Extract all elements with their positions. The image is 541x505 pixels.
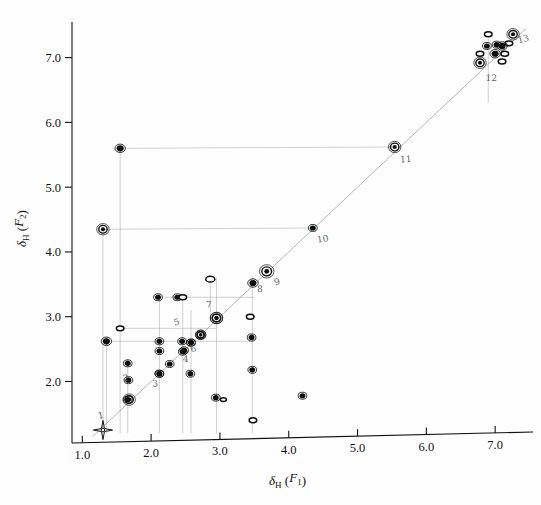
- peak: [474, 57, 486, 68]
- y-tick-label: 2.0: [45, 375, 61, 389]
- y-tick-label: 6.0: [45, 116, 61, 130]
- peak-core: [310, 225, 316, 230]
- peak: [484, 32, 492, 37]
- peak-contour: [179, 295, 187, 300]
- peak-contour: [498, 59, 506, 64]
- x-tick-label: 5.0: [350, 441, 366, 455]
- x-tick-label: 2.0: [143, 446, 159, 460]
- peak-core: [179, 339, 185, 344]
- peak-core: [117, 145, 124, 151]
- axis-spines: [72, 22, 533, 443]
- peak-core: [127, 398, 131, 402]
- peak-core: [187, 371, 193, 376]
- peak-number-annotation: 8: [257, 284, 263, 294]
- cosy-spectrum-figure: 7.06.05.04.03.02.0 1.02.03.04.05.06.07.0…: [0, 0, 541, 505]
- peak-number-annotation: 1: [97, 410, 105, 421]
- peak-core: [156, 339, 162, 344]
- peak-core: [167, 361, 173, 366]
- peak: [247, 334, 256, 341]
- x-tick-label: 4.0: [281, 443, 297, 457]
- peak: [195, 330, 205, 340]
- x-tick-label: 1.0: [75, 448, 91, 462]
- peak-core: [103, 338, 110, 344]
- peak-core: [213, 395, 219, 400]
- peak-core: [511, 32, 515, 36]
- y-axis-title: δH (F2): [11, 210, 31, 247]
- peak: [476, 51, 484, 56]
- peak: [155, 348, 164, 355]
- peak: [210, 312, 222, 323]
- peak-core: [156, 371, 162, 376]
- peak-contour: [206, 276, 215, 282]
- peak: [248, 366, 257, 373]
- peak: [116, 326, 124, 331]
- peak-number-annotation: 7: [206, 299, 213, 309]
- peak-core: [393, 145, 397, 149]
- peak-core: [101, 227, 105, 231]
- artifact-peak-core: [101, 428, 104, 431]
- y-axis-ticks: 7.06.05.04.03.02.0: [45, 51, 72, 389]
- peak-core: [264, 269, 269, 274]
- x-axis-spine: [72, 432, 533, 443]
- peak-number-annotation: 5: [173, 317, 181, 328]
- peak-core: [300, 393, 306, 398]
- x-tick-label: 6.0: [419, 440, 435, 454]
- x-axis-title: δH (F1): [269, 470, 306, 490]
- peak: [498, 59, 506, 64]
- peak-core: [499, 43, 506, 49]
- peak: [165, 360, 174, 367]
- peak: [259, 265, 274, 278]
- peak-number-annotation: 9: [273, 276, 281, 287]
- peak: [246, 314, 254, 319]
- peak: [501, 51, 509, 56]
- peak: [97, 224, 109, 235]
- peak: [220, 398, 226, 402]
- peak: [186, 370, 195, 377]
- x-tick-label: 7.0: [487, 438, 503, 452]
- peak: [388, 141, 400, 152]
- peak-contour: [476, 51, 484, 56]
- peak-number-annotation: 11: [400, 154, 412, 165]
- peak-core: [214, 316, 218, 320]
- peak-core: [199, 333, 202, 336]
- peak-core: [492, 51, 499, 57]
- x-tick-label: 3.0: [212, 444, 228, 458]
- peak-number-annotation: 10: [316, 233, 329, 245]
- peak-core: [125, 361, 131, 366]
- peak-contour: [220, 398, 226, 402]
- peak-core: [484, 43, 490, 48]
- y-tick-label: 3.0: [45, 310, 61, 324]
- peak-number-annotation: 6: [190, 343, 197, 354]
- peak-core: [249, 335, 255, 340]
- spectrum-plot: 7.06.05.04.03.02.0 1.02.03.04.05.06.07.0…: [0, 0, 541, 505]
- peak: [123, 394, 135, 405]
- peak-contour: [249, 418, 257, 423]
- peak-core: [249, 280, 256, 286]
- peak-contour: [116, 326, 124, 331]
- correlation-line: [103, 228, 313, 229]
- peak: [206, 276, 215, 282]
- peak: [298, 392, 307, 399]
- peak-contour: [246, 314, 254, 319]
- peak-number-annotation: 13: [517, 33, 531, 46]
- x-axis-ticks: 1.02.03.04.05.06.07.0: [75, 426, 503, 462]
- peak: [179, 295, 187, 300]
- peak-number-annotation: 2: [122, 373, 129, 384]
- peak: [211, 394, 220, 401]
- y-tick-label: 4.0: [45, 245, 61, 259]
- peak: [155, 370, 164, 377]
- peak-core: [478, 61, 482, 65]
- peak-core: [156, 348, 162, 353]
- y-tick-label: 5.0: [45, 181, 61, 195]
- peak-core: [249, 367, 255, 372]
- peak-contour: [484, 32, 492, 37]
- peak-number-annotation: 12: [485, 73, 497, 83]
- peak: [249, 418, 257, 423]
- peak-core: [155, 295, 161, 300]
- peak-number-annotation: 3: [152, 378, 159, 388]
- y-tick-label: 7.0: [45, 51, 61, 65]
- correlation-line: [120, 147, 395, 148]
- peak: [123, 360, 132, 367]
- peak: [483, 42, 492, 49]
- peak-number-annotation: 4: [183, 354, 189, 364]
